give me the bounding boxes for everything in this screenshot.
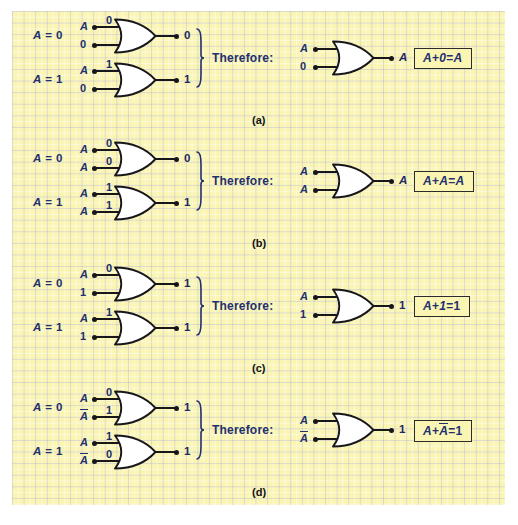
- case-output-label: 1: [184, 197, 190, 209]
- case-input-bit-value: 1: [106, 307, 112, 318]
- summary-input-label: 1: [300, 309, 306, 320]
- case-input-bit-value: 1: [106, 431, 112, 442]
- case-output-terminal: [174, 201, 179, 206]
- summary-input-label: A: [300, 43, 308, 54]
- panel-letter: (d): [252, 487, 266, 498]
- therefore-label: Therefore:: [212, 424, 273, 436]
- summary-output-label: A: [399, 175, 407, 187]
- summary-input-label: A: [300, 166, 308, 177]
- case-input-bit-value: 0: [106, 263, 112, 274]
- case-output-label: 1: [184, 278, 190, 290]
- or-gate: [331, 412, 375, 448]
- summary-output-terminal: [389, 428, 394, 433]
- case-input-bit-value: 0: [106, 449, 112, 460]
- or-gate: [113, 185, 157, 221]
- summary-output-terminal: [389, 56, 394, 61]
- or-gate: [113, 62, 157, 98]
- case-input-label: A: [80, 65, 88, 76]
- case-output-terminal: [174, 450, 179, 455]
- or-gate: [113, 141, 157, 177]
- case-condition: A = 0: [33, 278, 63, 290]
- summary-input-label: 0: [300, 61, 306, 72]
- case-output-wire: [155, 407, 176, 409]
- or-gate: [331, 288, 375, 324]
- case-input-label: 1: [80, 287, 86, 298]
- summary-input-label: A: [300, 432, 308, 444]
- case-input-label: A: [80, 162, 88, 173]
- case-output-label: 0: [184, 153, 190, 165]
- or-gate: [331, 163, 375, 199]
- summary-output-terminal: [389, 304, 394, 309]
- case-input-bit-value: 0: [106, 387, 112, 398]
- case-input-label: A: [80, 21, 88, 32]
- case-input-label: A: [80, 313, 88, 324]
- or-gate: [113, 266, 157, 302]
- rule-equation-box: A + 1 = 1: [414, 296, 470, 317]
- case-input-bit-value: 1: [106, 405, 112, 416]
- case-output-wire: [155, 158, 176, 160]
- case-output-wire: [155, 35, 176, 37]
- case-input-label: A: [80, 144, 88, 155]
- summary-output-label: 1: [399, 424, 405, 436]
- case-output-wire: [155, 283, 176, 285]
- summary-output-label: 1: [399, 300, 405, 312]
- case-input-label: A: [80, 269, 88, 280]
- case-condition: A = 0: [33, 153, 63, 165]
- case-output-label: 1: [184, 322, 190, 334]
- case-input-label: 0: [80, 39, 86, 50]
- case-condition: A = 0: [33, 30, 63, 42]
- case-input-bit-value: 0: [106, 138, 112, 149]
- case-input-label: A: [80, 454, 88, 466]
- therefore-brace: [196, 151, 205, 211]
- case-condition: A = 1: [33, 446, 63, 458]
- case-input-bit-value: 0: [106, 156, 112, 167]
- case-output-terminal: [174, 406, 179, 411]
- case-condition: A = 1: [33, 322, 63, 334]
- case-output-wire: [155, 79, 176, 81]
- case-input-label: A: [80, 188, 88, 199]
- case-output-wire: [155, 202, 176, 204]
- therefore-label: Therefore:: [212, 52, 273, 64]
- case-input-label: A: [80, 206, 88, 217]
- rule-equation-box: A + 0 = A: [414, 48, 472, 69]
- case-input-label: A: [80, 437, 88, 448]
- case-input-label: 0: [80, 83, 86, 94]
- case-output-label: 1: [184, 402, 190, 414]
- case-input-bit-value: 1: [106, 59, 112, 70]
- therefore-brace: [196, 400, 205, 460]
- summary-input-label: A: [300, 415, 308, 426]
- summary-input-label: A: [300, 184, 308, 195]
- or-gate: [113, 390, 157, 426]
- case-condition: A = 0: [33, 402, 63, 414]
- case-condition: A = 1: [33, 74, 63, 86]
- rule-equation-box: A + A = A: [414, 171, 474, 192]
- case-input-bit-value: 0: [106, 15, 112, 26]
- case-condition: A = 1: [33, 197, 63, 209]
- therefore-label: Therefore:: [212, 300, 273, 312]
- panel-letter: (c): [252, 363, 265, 374]
- therefore-label: Therefore:: [212, 175, 273, 187]
- case-output-terminal: [174, 34, 179, 39]
- case-output-wire: [155, 327, 176, 329]
- case-output-wire: [155, 451, 176, 453]
- case-output-terminal: [174, 282, 179, 287]
- therefore-brace: [196, 28, 205, 88]
- summary-output-terminal: [389, 179, 394, 184]
- case-input-label: A: [80, 393, 88, 404]
- case-output-label: 0: [184, 30, 190, 42]
- or-gate: [331, 40, 375, 76]
- panel-letter: (a): [252, 115, 265, 126]
- case-input-label: A: [80, 410, 88, 422]
- case-output-terminal: [174, 157, 179, 162]
- case-input-bit-value: 1: [106, 182, 112, 193]
- panel-letter: (b): [252, 238, 266, 249]
- summary-input-label: A: [300, 291, 308, 302]
- boolean-rules-figure: A = 0A000A = 1A101Therefore:A0AA + 0 = A…: [0, 0, 518, 525]
- or-gate: [113, 434, 157, 470]
- case-input-label: 1: [80, 331, 86, 342]
- or-gate: [113, 18, 157, 54]
- case-input-bit-value: 1: [106, 200, 112, 211]
- case-output-terminal: [174, 78, 179, 83]
- case-output-label: 1: [184, 446, 190, 458]
- or-gate: [113, 310, 157, 346]
